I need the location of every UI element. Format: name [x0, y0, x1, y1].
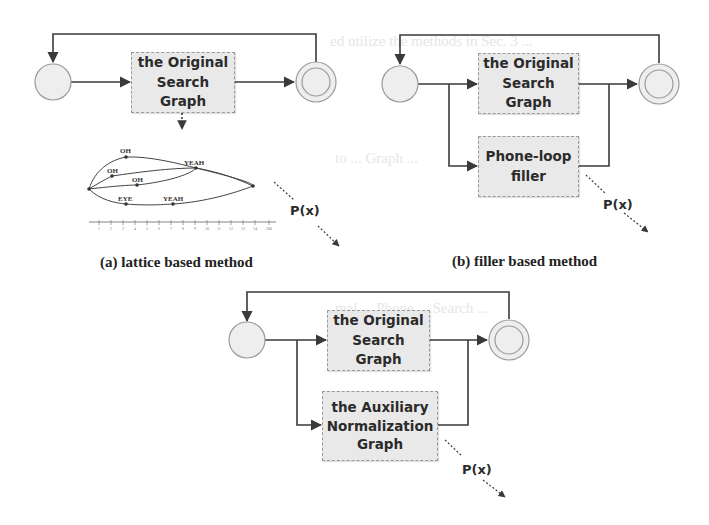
box-label-line: Phone-loop: [486, 147, 572, 167]
box-label-line: the Original: [132, 53, 234, 73]
phone-loop-filler-box: Phone-loop filler: [478, 136, 579, 197]
px-arrow: [274, 182, 294, 200]
start-node-icon: [229, 322, 265, 358]
original-search-graph-box-c: the Original Search Graph: [327, 310, 430, 371]
px-arrow: [483, 480, 505, 497]
px-arrow: [586, 175, 606, 194]
lattice-word: EYE: [118, 195, 132, 203]
edge-start-to-aux: [297, 340, 321, 425]
box-label-line: the Original: [328, 311, 429, 331]
timeline-tick-label: 14: [253, 226, 257, 231]
lattice-word: YEAH: [184, 159, 204, 167]
timeline-tick-label: 11: [217, 226, 221, 231]
box-label-line: the Auxiliary: [327, 398, 434, 417]
lattice-word: OH: [132, 176, 143, 184]
edge-filler-to-merge: [579, 84, 609, 166]
box-label-line: the Original: [479, 54, 578, 74]
original-search-graph-box-b: the Original Search Graph: [478, 53, 579, 114]
box-label-line: filler: [486, 167, 572, 187]
px-arrow: [445, 440, 462, 456]
timeline-tick-label: 4: [134, 226, 136, 231]
timeline-tick-label: 100: [266, 226, 272, 231]
output-probability-label: P(x): [603, 197, 633, 212]
box-label-line: Search Graph: [328, 331, 429, 370]
timeline-tick-label: 7: [170, 226, 172, 231]
start-node-icon: [35, 64, 71, 100]
lattice-word: YEAH: [163, 195, 183, 203]
box-label-line: Search Graph: [132, 73, 234, 112]
timeline-tick-label: 8: [182, 226, 184, 231]
start-node-icon: [382, 66, 418, 102]
px-arrow: [318, 226, 339, 246]
original-search-graph-box-a: the Original Search Graph: [131, 52, 235, 113]
timeline-tick-label: 6: [158, 226, 160, 231]
timeline-tick-label: 9: [194, 226, 196, 231]
timeline-tick-label: 12: [229, 226, 233, 231]
timeline-ticks: [99, 220, 269, 225]
timeline-tick-label: 2: [110, 226, 112, 231]
output-probability-label: P(x): [290, 203, 320, 218]
box-label-line: Graph: [327, 435, 434, 454]
edge-start-to-filler: [449, 84, 477, 166]
edge-aux-to-merge: [438, 340, 468, 425]
lattice-word: OH: [107, 167, 118, 175]
caption-a: (a) lattice based method: [100, 254, 253, 271]
output-probability-label: P(x): [462, 462, 492, 477]
timeline-tick-label: 10: [205, 226, 209, 231]
timeline-tick-label: 3: [122, 226, 124, 231]
box-label-line: Search Graph: [479, 74, 578, 113]
timeline-tick-label: 13: [241, 226, 245, 231]
caption-b: (b) filler based method: [452, 253, 597, 270]
box-label-line: Normalization: [327, 417, 434, 436]
auxiliary-normalization-graph-box: the Auxiliary Normalization Graph: [322, 391, 438, 461]
timeline-tick-label: 1: [98, 226, 100, 231]
timeline-tick-label: 5: [146, 226, 148, 231]
lattice-word: OH: [120, 147, 131, 155]
px-arrow: [624, 213, 648, 232]
